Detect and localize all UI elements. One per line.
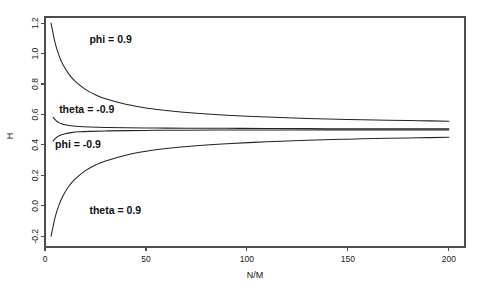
- y-tick-label: 0.0: [30, 200, 40, 212]
- series-annotation: theta = 0.9: [89, 204, 141, 216]
- line-chart: 050100150200-0.20.00.20.40.60.81.01.2 ph…: [0, 0, 481, 292]
- y-tick-label: 1.0: [30, 47, 40, 59]
- x-tick-label: 0: [43, 254, 48, 264]
- y-tick-label: 0.4: [30, 139, 40, 151]
- x-tick-label: 150: [341, 254, 355, 264]
- y-tick-label: 0.8: [30, 78, 40, 90]
- y-axis-title: H: [5, 133, 15, 140]
- y-tick-label: 1.2: [30, 17, 40, 29]
- chart-figure: 050100150200-0.20.00.20.40.60.81.01.2 ph…: [0, 0, 481, 292]
- x-tick-label: 100: [240, 254, 254, 264]
- series-annotation: theta = -0.9: [59, 103, 114, 115]
- series-annotation: phi = -0.9: [55, 138, 101, 150]
- x-axis-title: N/M: [247, 270, 264, 280]
- y-tick-label: 0.2: [30, 169, 40, 181]
- y-tick-label: 0.6: [30, 108, 40, 120]
- series-annotation: phi = 0.9: [89, 33, 131, 45]
- x-tick-label: 200: [442, 254, 456, 264]
- x-tick-label: 50: [141, 254, 151, 264]
- y-tick-label: -0.2: [30, 229, 40, 244]
